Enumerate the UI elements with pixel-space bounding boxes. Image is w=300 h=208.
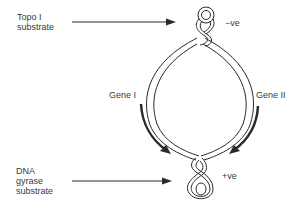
dna-loop (146, 38, 253, 160)
gyrase-label-line3: substrate (16, 186, 53, 196)
positive-supercoil (187, 158, 213, 199)
gyrase-arrow (72, 178, 172, 185)
gene2-arrow (229, 106, 258, 154)
gene1-label: Gene I (109, 90, 136, 100)
negative-label: −ve (225, 18, 240, 28)
gene1-arrow (141, 104, 171, 154)
gyrase-label-line1: DNA (16, 166, 35, 176)
topo-label-line2: substrate (17, 22, 54, 32)
gyrase-label-line2: gyrase (16, 176, 43, 186)
negative-supercoil (196, 7, 214, 46)
topo-arrow (72, 19, 176, 26)
gene2-label: Gene II (256, 90, 286, 100)
topo-label-line1: Topo I (17, 12, 42, 22)
positive-label: +ve (222, 171, 237, 181)
